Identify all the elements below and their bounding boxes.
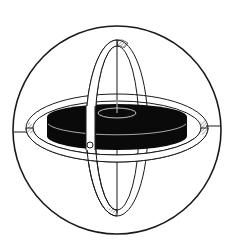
gyroscope-illustration — [0, 0, 233, 252]
pivot — [87, 142, 93, 148]
gyroscope-diagram — [0, 0, 233, 252]
